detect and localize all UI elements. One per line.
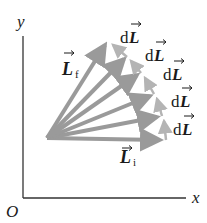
x-axis-label: x <box>191 188 200 207</box>
origin-label: O <box>6 202 18 221</box>
dL-prefix: d <box>173 120 182 139</box>
dL-arrow-3 <box>145 78 154 94</box>
vector-arrow-icon <box>131 22 141 27</box>
L-final-subscript: f <box>75 68 79 80</box>
dL-prefix: d <box>163 65 172 84</box>
dL-symbol: L <box>179 92 190 111</box>
label-dL-1: d L <box>120 22 141 48</box>
dL-prefix: d <box>120 28 129 47</box>
vector-arrow-icon <box>64 51 74 56</box>
label-dL-2: d L <box>145 40 166 66</box>
vector-arrow-icon <box>174 59 184 64</box>
label-L-initial: L i <box>119 146 136 169</box>
dL-symbol: L <box>153 46 164 65</box>
vector-arrow-icon <box>184 114 194 119</box>
label-dL-3: d L <box>163 59 184 85</box>
label-L-final: L f <box>61 51 79 81</box>
label-dL-5: d L <box>173 114 194 140</box>
dL-symbol: L <box>128 28 139 47</box>
y-axis-label: y <box>15 12 25 31</box>
dL-prefix: d <box>171 92 180 111</box>
angular-momentum-diagram: y x O L f L i d L d L d L d L d L <box>0 0 207 223</box>
vector-arrow-icon <box>182 86 192 91</box>
dL-arrow-4 <box>131 61 141 73</box>
dL-arrow-2 <box>157 99 162 116</box>
L-final-symbol: L <box>61 59 73 79</box>
L-initial-subscript: i <box>133 156 136 168</box>
dL-arrow-1 <box>164 121 166 140</box>
dL-prefix: d <box>145 46 154 65</box>
dL-symbol: L <box>181 120 192 139</box>
vector-arrow-icon <box>156 40 166 45</box>
vector-L-initial <box>47 138 160 140</box>
dL-symbol: L <box>171 65 182 84</box>
label-dL-4: d L <box>171 86 192 112</box>
